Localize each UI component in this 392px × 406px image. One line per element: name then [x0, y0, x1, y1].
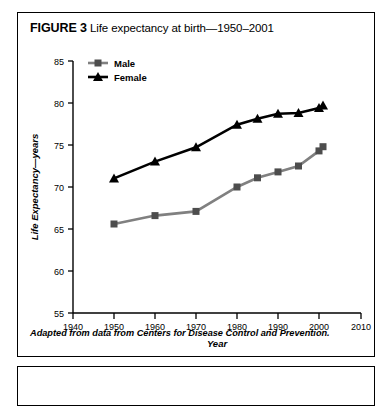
bottom-panel: [17, 366, 375, 406]
figure-source-note: Adapted from data from Centers for Disea…: [30, 328, 330, 338]
legend-item-male[interactable]: Male: [88, 58, 135, 69]
x-axis-ticks: [73, 313, 361, 319]
series-markers-male: [111, 143, 327, 227]
data-point-male-1985: [254, 174, 261, 181]
y-axis-title: Life Expectancy—years: [29, 134, 40, 241]
y-tick-label-55: 55: [54, 309, 64, 319]
x-axis-title: Year: [207, 338, 229, 349]
figure-panel: FIGURE 3 Life expectancy at birth—1950–2…: [17, 12, 375, 357]
line-chart: 55 60 65 70 75 80 85 1940 1950 1960 1970…: [18, 13, 376, 358]
y-axis-tick-labels: 55 60 65 70 75 80 85: [54, 57, 64, 319]
data-point-male-1990: [275, 168, 282, 175]
data-point-male-1950: [111, 221, 118, 228]
legend-item-female[interactable]: Female: [88, 72, 147, 83]
y-axis-ticks: [68, 61, 73, 313]
x-tick-label-2010: 2010: [351, 322, 371, 332]
y-tick-label-75: 75: [54, 141, 64, 151]
y-tick-label-85: 85: [54, 57, 64, 67]
data-point-male-1980: [234, 184, 241, 191]
y-tick-label-60: 60: [54, 267, 64, 277]
data-point-male-2001: [320, 143, 327, 150]
series-line-male: [114, 147, 323, 224]
data-point-male-1970: [193, 208, 200, 215]
y-tick-label-70: 70: [54, 183, 64, 193]
data-point-male-1995: [295, 163, 302, 170]
legend-label-female: Female: [114, 72, 147, 83]
y-tick-label-80: 80: [54, 99, 64, 109]
data-point-male-1960: [152, 212, 159, 219]
legend-label-male: Male: [114, 58, 135, 69]
y-tick-label-65: 65: [54, 225, 64, 235]
chart-legend: Male Female: [88, 58, 147, 83]
legend-swatch-male-marker: [95, 60, 102, 67]
